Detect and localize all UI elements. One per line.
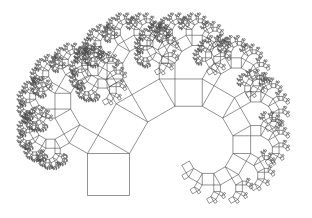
fractal-figure: Pythagoras tree fractal: [0, 0, 312, 218]
tree-squares: [17, 13, 290, 204]
pythagoras-tree-drawing: [0, 0, 312, 218]
